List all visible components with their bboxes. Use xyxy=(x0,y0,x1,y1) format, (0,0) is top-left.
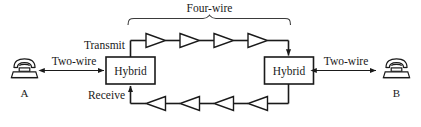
receive-amplifier-2 xyxy=(214,97,234,111)
receive-amplifier-3 xyxy=(180,97,200,111)
telephone-a-label: A xyxy=(21,87,29,99)
receive-label: Receive xyxy=(88,89,125,101)
receive-amplifier-1 xyxy=(248,97,268,111)
hybrid-left[interactable]: Hybrid xyxy=(106,57,155,84)
four-wire-brace xyxy=(128,15,291,25)
four-wire-label: Four-wire xyxy=(187,2,233,14)
transmit-amplifier-4 xyxy=(248,34,268,48)
telephone-b-label: B xyxy=(393,87,400,99)
transmit-path xyxy=(131,34,289,58)
hybrid-right-label: Hybrid xyxy=(273,65,306,78)
transmit-amplifier-1 xyxy=(146,34,166,48)
transmit-amplifier-2 xyxy=(180,34,200,48)
receive-amplifier-4 xyxy=(146,97,166,111)
telephone-icon-a[interactable] xyxy=(11,59,37,78)
four-wire-circuit-diagram: Four-wire xyxy=(0,0,421,127)
telephone-icon-b[interactable] xyxy=(383,59,409,78)
transmit-label: Transmit xyxy=(84,39,126,51)
hybrid-left-label: Hybrid xyxy=(114,65,147,78)
diagram-canvas: Four-wire xyxy=(0,0,421,127)
two-wire-left-label: Two-wire xyxy=(52,55,97,67)
receive-path xyxy=(131,84,289,111)
two-wire-right-label: Two-wire xyxy=(324,55,369,67)
transmit-amplifier-3 xyxy=(214,34,234,48)
hybrid-right[interactable]: Hybrid xyxy=(265,57,314,84)
